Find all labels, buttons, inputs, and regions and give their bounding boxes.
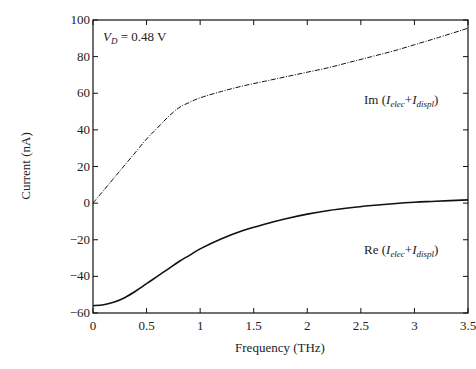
- x-tick-label: 3.5: [460, 318, 476, 333]
- current-frequency-chart: 00.511.522.533.5−60−40−20020406080100 Fr…: [0, 0, 476, 369]
- y-tick-label: 60: [77, 85, 90, 100]
- axis-ticks: 00.511.522.533.5−60−40−20020406080100: [70, 12, 476, 333]
- plot-border: [93, 20, 468, 313]
- x-tick-label: 2: [304, 318, 311, 333]
- plot-frame: [93, 20, 468, 313]
- bias-voltage-annotation: VD = 0.48 V: [103, 29, 167, 46]
- x-axis-title: Frequency (THz): [235, 340, 325, 355]
- y-tick-label: 0: [84, 195, 91, 210]
- re-series-label: Re (Ielec+Idispl): [364, 242, 438, 259]
- x-tick-label: 2.5: [353, 318, 369, 333]
- y-tick-label: 100: [71, 12, 91, 27]
- y-tick-label: −20: [70, 232, 90, 247]
- im-series-label: Im (Ielec+Idispl): [364, 92, 438, 109]
- y-tick-label: −40: [70, 268, 90, 283]
- y-axis-title: Current (nA): [18, 132, 33, 200]
- im-current-line: [93, 28, 468, 203]
- x-tick-label: 1.5: [246, 318, 262, 333]
- y-tick-label: 80: [77, 49, 90, 64]
- y-tick-label: 40: [77, 122, 90, 137]
- x-tick-label: 3: [411, 318, 418, 333]
- data-series: [93, 28, 468, 305]
- x-tick-label: 1: [197, 318, 204, 333]
- y-tick-label: −60: [70, 305, 90, 320]
- x-tick-label: 0.5: [138, 318, 154, 333]
- y-tick-label: 20: [77, 159, 90, 174]
- x-tick-label: 0: [90, 318, 97, 333]
